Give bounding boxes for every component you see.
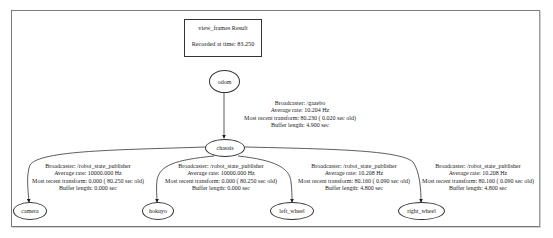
recent-transform-text: Most recent transform: 0.000 ( 80.250 se… [165, 178, 277, 185]
buffer-length-text: Buffer length: 0.000 sec [165, 185, 277, 192]
edge-label-chassis-right-wheel: Broadcaster: /robot_state_publisher Aver… [422, 163, 534, 192]
broadcaster-text: Broadcaster: /robot_state_publisher [32, 163, 144, 170]
node-chassis[interactable]: chassis [205, 139, 245, 157]
node-label: odom [218, 79, 232, 85]
broadcaster-text: Broadcaster: /robot_state_publisher [298, 163, 410, 170]
buffer-length-text: Buffer length: 0.000 sec [32, 185, 144, 192]
node-odom[interactable]: odom [209, 70, 240, 93]
edge-label-chassis-left-wheel: Broadcaster: /robot_state_publisher Aver… [298, 163, 410, 192]
edge-label-chassis-camera: Broadcaster: /robot_state_publisher Aver… [32, 163, 144, 192]
edge-label-odom-chassis: Broadcaster: /gazebo Average rate: 10.20… [244, 100, 356, 129]
average-rate-text: Average rate: 10.204 Hz [244, 107, 356, 114]
node-label: right_wheel [407, 208, 436, 214]
edge-label-chassis-hokuyo: Broadcaster: /robot_state_publisher Aver… [165, 163, 277, 192]
node-label: chassis [217, 145, 234, 151]
recent-transform-text: Most recent transform: 80.160 ( 0.090 se… [422, 178, 534, 185]
broadcaster-text: Broadcaster: /gazebo [244, 100, 356, 107]
node-camera[interactable]: camera [13, 202, 47, 220]
node-label: camera [21, 208, 38, 214]
node-label: left_wheel [279, 208, 304, 214]
average-rate-text: Average rate: 10000.000 Hz [165, 170, 277, 177]
node-hokuyo[interactable]: hokuyo [142, 202, 174, 220]
buffer-length-text: Buffer length: 4.900 sec [244, 122, 356, 129]
broadcaster-text: Broadcaster: /robot_state_publisher [165, 163, 277, 170]
broadcaster-text: Broadcaster: /robot_state_publisher [422, 163, 534, 170]
recent-transform-text: Most recent transform: 80.160 ( 0.090 se… [298, 178, 410, 185]
recorded-time: Recorded at time: 83.250 [185, 41, 261, 47]
average-rate-text: Average rate: 10.208 Hz [422, 170, 534, 177]
recent-transform-text: Most recent transform: 0.000 ( 80.250 se… [32, 178, 144, 185]
average-rate-text: Average rate: 10.208 Hz [298, 170, 410, 177]
buffer-length-text: Buffer length: 4.800 sec [298, 185, 410, 192]
node-left-wheel[interactable]: left_wheel [270, 202, 314, 220]
node-label: hokuyo [149, 208, 167, 214]
average-rate-text: Average rate: 10000.000 Hz [32, 170, 144, 177]
title-text: view_frames Result [185, 25, 261, 31]
node-right-wheel[interactable]: right_wheel [398, 202, 445, 220]
buffer-length-text: Buffer length: 4.800 sec [422, 185, 534, 192]
view-frames-title-box: view_frames Result Recorded at time: 83.… [184, 19, 262, 57]
recent-transform-text: Most recent transform: 80.230 ( 0.020 se… [244, 115, 356, 122]
